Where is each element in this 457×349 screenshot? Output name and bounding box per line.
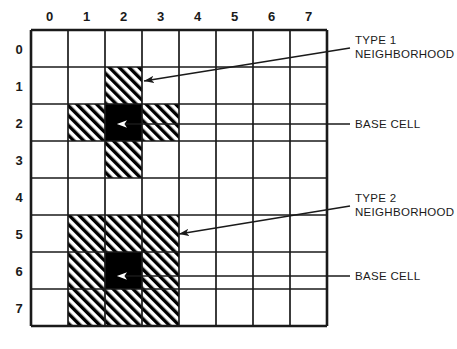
column-header-0: 0 (46, 9, 53, 24)
type-1-base-cell-callout-label: BASE CELL (355, 118, 421, 130)
hatched-cell-type-2-r5c2 (105, 215, 142, 252)
hatched-cell-type-2-r7c3 (142, 289, 179, 326)
hatched-cell-type-1-r1c2 (105, 67, 142, 104)
column-header-5: 5 (231, 9, 238, 24)
type-2-callout-label-line2: NEIGHBORHOOD (355, 206, 454, 218)
type-2-callout-label: TYPE 2 (355, 192, 396, 204)
row-header-1: 1 (15, 79, 22, 94)
hatched-cell-type-1-r3c2 (105, 141, 142, 178)
type-1-callout-leader-line (144, 48, 350, 81)
hatched-cell-type-1-r2c1 (68, 104, 105, 141)
shaded-cells-layer (68, 67, 179, 326)
row-header-5: 5 (15, 227, 22, 242)
row-header-6: 6 (15, 264, 22, 279)
row-header-0: 0 (15, 42, 22, 57)
hatched-cell-type-1-r2c3 (142, 104, 179, 141)
row-header-4: 4 (15, 190, 23, 205)
diagram-canvas: 0123456701234567 TYPE 1NEIGHBORHOODBASE … (0, 0, 457, 349)
column-header-3: 3 (157, 9, 164, 24)
row-header-7: 7 (15, 301, 22, 316)
base-cell-type-2 (105, 252, 142, 289)
base-cell-type-1 (105, 104, 142, 141)
hatched-cell-type-2-r5c1 (68, 215, 105, 252)
hatched-cell-type-2-r7c2 (105, 289, 142, 326)
row-header-2: 2 (15, 116, 22, 131)
type-2-callout-leader-line (179, 206, 350, 234)
hatched-cell-type-2-r6c1 (68, 252, 105, 289)
hatched-cell-type-2-r5c3 (142, 215, 179, 252)
neighborhood-diagram: 0123456701234567 TYPE 1NEIGHBORHOODBASE … (0, 0, 457, 349)
column-header-2: 2 (120, 9, 127, 24)
column-header-7: 7 (305, 9, 312, 24)
type-1-callout-label-line2: NEIGHBORHOOD (355, 48, 454, 60)
column-header-6: 6 (268, 9, 275, 24)
row-header-3: 3 (15, 153, 22, 168)
hatched-cell-type-2-r7c1 (68, 289, 105, 326)
column-header-1: 1 (83, 9, 90, 24)
column-header-4: 4 (194, 9, 202, 24)
hatched-cell-type-2-r6c3 (142, 252, 179, 289)
type-1-callout-label: TYPE 1 (355, 34, 396, 46)
type-2-base-cell-callout-label: BASE CELL (355, 270, 421, 282)
